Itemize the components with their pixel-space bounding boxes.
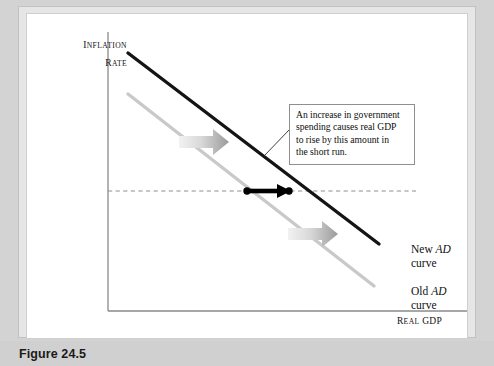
y-axis-label-line1: INFLATION	[55, 34, 127, 52]
callout-line-3: to rise by this amount in	[296, 134, 409, 146]
new-ad-curve-label-line1: New AD	[411, 243, 451, 257]
callout-line-1: An increase in government	[296, 109, 409, 121]
shift-arrow-upper-icon	[179, 129, 229, 155]
figure-caption: Figure 24.5	[19, 347, 86, 361]
figure-container: INFLATION RATE REAL GDP New AD curve Old…	[0, 0, 494, 366]
callout-line-2: spending causes real GDP	[296, 121, 409, 133]
y-axis-label: INFLATION RATE	[55, 34, 127, 70]
y-axis-label-line2: RATE	[55, 52, 127, 70]
new-ad-curve-label-line2: curve	[411, 257, 451, 271]
old-equilibrium-point	[243, 187, 250, 194]
x-axis-label: REAL GDP	[397, 310, 442, 328]
old-ad-curve-label-line1: Old AD	[411, 285, 446, 299]
callout-leader-line	[264, 130, 289, 156]
old-ad-curve-label: Old AD curve	[411, 285, 446, 312]
callout-box: An increase in government spending cause…	[289, 104, 415, 165]
new-equilibrium-point	[285, 187, 292, 194]
callout-line-4: the short run.	[296, 146, 409, 158]
old-ad-curve-label-line2: curve	[411, 299, 446, 313]
chart-panel: INFLATION RATE REAL GDP New AD curve Old…	[26, 13, 468, 339]
new-ad-curve-label: New AD curve	[411, 243, 451, 270]
